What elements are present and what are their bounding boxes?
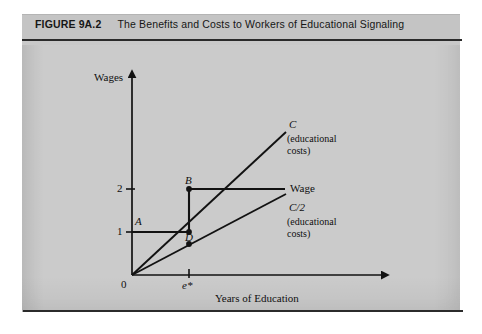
series-label-c: C [289,118,296,130]
series-label-c-half: C/2 [289,201,305,213]
series-line-c [132,132,286,275]
x-tick-label-estar: e* [182,279,192,291]
origin-label: 0 [121,278,127,290]
point-label-d: D [185,231,193,243]
figure-caption: FIGURE 9A.2 The Benefits and Costs to Wo… [35,18,404,30]
scanned-figure-page: FIGURE 9A.2 The Benefits and Costs to Wo… [0,0,482,334]
x-axis-label: Years of Education [215,292,299,304]
y-axis-label: Wages [94,71,123,83]
series-label-wage: Wage [290,182,315,194]
series-note-c-line2: costs) [287,145,310,156]
point-label-a: A [135,215,142,227]
series-note-c-line1: (educational [287,133,336,144]
series-note-c-half-line2: costs) [287,228,310,239]
point-label-b: B [185,174,192,186]
chart-area: Wages 2 1 0 e* Years of Education A B D … [22,45,460,310]
series-line-c-half [132,194,286,275]
figure-title: The Benefits and Costs to Workers of Edu… [117,18,404,30]
chart-svg [22,45,460,310]
point-marker-b [186,186,192,192]
title-underline [22,39,462,41]
figure-bottom-rule [23,310,463,312]
y-tick-label-1: 1 [117,225,123,237]
figure-number: FIGURE 9A.2 [35,18,101,30]
y-tick-label-2: 2 [117,182,123,194]
series-note-c-half-line1: (educational [287,216,336,227]
